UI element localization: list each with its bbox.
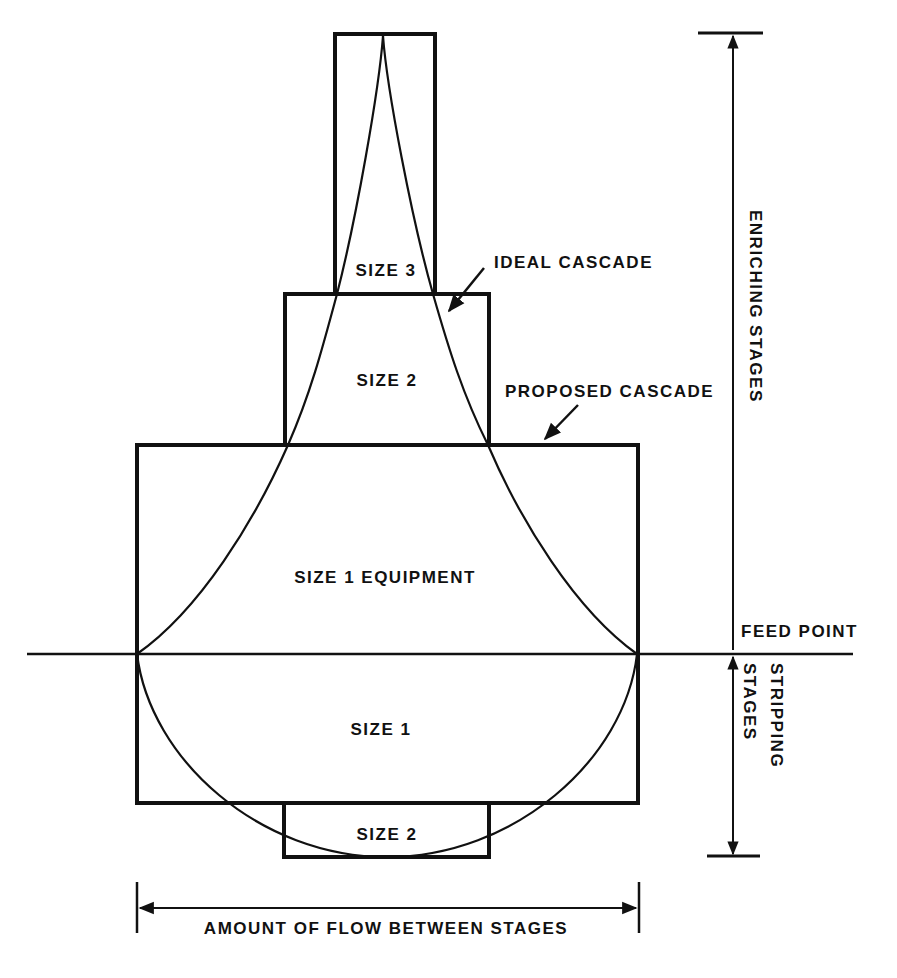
label-ideal-cascade: IDEAL CASCADE (494, 253, 653, 272)
label-feed-point: FEED POINT (741, 622, 858, 641)
label-size-3: SIZE 3 (356, 261, 417, 280)
size-3-box (335, 34, 435, 294)
cascade-diagram: SIZE 3 SIZE 2 SIZE 1 EQUIPMENT SIZE 1 SI… (0, 0, 897, 978)
label-size-1-equipment: SIZE 1 EQUIPMENT (294, 568, 476, 587)
ideal-curve-right (383, 36, 637, 654)
ideal-cascade-pointer-arrow (449, 268, 484, 311)
proposed-cascade-pointer-arrow (545, 405, 578, 439)
label-size-2-lower: SIZE 2 (357, 825, 418, 844)
label-stripping: STRIPPING (767, 663, 786, 768)
label-proposed-cascade: PROPOSED CASCADE (505, 382, 714, 401)
label-size-2-upper: SIZE 2 (357, 371, 418, 390)
label-flow-axis: AMOUNT OF FLOW BETWEEN STAGES (204, 919, 568, 938)
size-1-box (137, 445, 638, 803)
label-size-1-lower: SIZE 1 (351, 720, 412, 739)
label-stripping-stages: STAGES (740, 663, 759, 741)
label-enriching-stages: ENRICHING STAGES (746, 210, 765, 403)
ideal-curve-left (137, 36, 383, 654)
